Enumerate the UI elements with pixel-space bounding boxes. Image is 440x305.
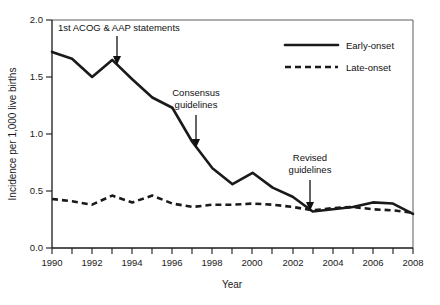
annotation-consensus-label-line1: Consensus [172, 87, 220, 98]
x-tick-label-1990: 1990 [41, 257, 62, 268]
x-tick-label-1992: 1992 [81, 257, 102, 268]
x-tick-label-2006: 2006 [362, 257, 383, 268]
chart-figure: 0.0 0.5 1.0 1.5 2.0 [0, 0, 440, 305]
data-series-group [52, 52, 413, 214]
plot-frame [52, 20, 413, 248]
y-tick-label-0: 0.0 [30, 242, 43, 253]
series-line-early-onset [52, 52, 413, 214]
y-tick-label-4: 2.0 [30, 14, 43, 25]
y-axis-ticks: 0.0 0.5 1.0 1.5 2.0 [30, 14, 52, 253]
legend-label-early-onset: Early-onset [346, 40, 394, 51]
x-axis-title: Year [222, 279, 243, 290]
annotation-revised-label-line2: guidelines [289, 164, 332, 175]
annotation-consensus-label-line2: guidelines [175, 99, 218, 110]
x-tick-label-1998: 1998 [201, 257, 222, 268]
x-tick-label-2000: 2000 [241, 257, 262, 268]
legend-label-late-onset: Late-onset [346, 62, 391, 73]
x-tick-label-2002: 2002 [282, 257, 303, 268]
annotation-revised-label-line1: Revised [293, 152, 327, 163]
y-tick-label-3: 1.5 [30, 71, 43, 82]
x-tick-label-2008: 2008 [402, 257, 423, 268]
annotation-acog-label: 1st ACOG & AAP statements [58, 22, 180, 33]
annotation-acog: 1st ACOG & AAP statements [58, 22, 180, 65]
x-tick-label-1996: 1996 [161, 257, 182, 268]
x-axis-ticks: 1990 1992 1994 1996 1998 2000 2002 2004 … [41, 248, 423, 268]
incidence-line-chart: 0.0 0.5 1.0 1.5 2.0 [0, 0, 440, 305]
x-tick-label-1994: 1994 [121, 257, 142, 268]
y-tick-label-2: 1.0 [30, 128, 43, 139]
legend: Early-onset Late-onset [285, 40, 394, 73]
annotation-revised: Revised guidelines [289, 152, 332, 211]
x-tick-label-2004: 2004 [322, 257, 343, 268]
y-tick-label-1: 0.5 [30, 185, 43, 196]
series-line-late-onset [52, 196, 413, 213]
y-axis-title: Incidence per 1,000 live births [7, 68, 18, 201]
